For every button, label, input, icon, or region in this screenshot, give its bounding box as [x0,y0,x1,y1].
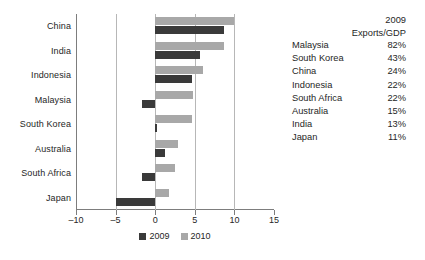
table-cell-country: South Korea [292,52,364,65]
table-cell-country: China [292,65,364,78]
table-cell-value: 13% [364,118,420,131]
bar-2009-south-africa [142,173,155,181]
chart-page: ChinaIndiaIndonesiaMalaysiaSouth KoreaAu… [0,0,425,260]
bar-2010-india [155,42,224,50]
table-row: India13% [292,118,420,131]
category-label: South Africa [21,168,71,178]
table-row: Japan11% [292,131,420,144]
table-row: Indonesia22% [292,79,420,92]
bar-2009-india [155,51,199,59]
table-cell-country: India [292,118,364,131]
chart-legend: 20092010 [76,231,274,241]
x-tick-label: –5 [111,215,121,225]
category-label: Australia [35,144,71,154]
bar-2010-china [155,17,234,25]
table-cell-country: Japan [292,131,364,144]
bar-2010-malaysia [155,91,193,99]
legend-label: 2009 [149,231,169,241]
table-row: South Africa22% [292,92,420,105]
table-cell-value: 15% [364,105,420,118]
bar-2010-south-africa [155,164,175,172]
category-label: South Korea [20,119,71,129]
x-tick-label: –10 [68,215,83,225]
category-label: Indonesia [31,70,71,80]
table-row: Australia15% [292,105,420,118]
bar-group: South Korea [76,112,274,137]
bar-2009-indonesia [155,75,191,83]
table-cell-country: Malaysia [292,39,364,52]
bar-2010-australia [155,140,178,148]
legend-item: 2009 [139,231,169,241]
legend-label: 2010 [191,231,211,241]
x-axis-tick-labels: –10–5051015 [76,212,274,228]
plot-area: ChinaIndiaIndonesiaMalaysiaSouth KoreaAu… [76,14,274,210]
bar-2009-malaysia [142,100,155,108]
legend-item: 2010 [181,231,211,241]
bar-group: Indonesia [76,63,274,88]
table-cell-country: Australia [292,105,364,118]
bar-chart: ChinaIndiaIndonesiaMalaysiaSouth KoreaAu… [0,0,290,260]
bar-group: China [76,14,274,39]
x-tick-label: 10 [229,215,239,225]
bar-2009-china [155,26,224,34]
bar-2010-indonesia [155,66,203,74]
bar-group: Japan [76,186,274,211]
bar-group: South Africa [76,161,274,186]
bar-group: Australia [76,137,274,162]
table-row: China24% [292,65,420,78]
category-label: India [51,46,71,56]
table-cell-value: 22% [364,79,420,92]
bar-2009-south-korea [155,124,157,132]
table-cell-country: South Africa [292,92,364,105]
x-tick-label: 0 [153,215,158,225]
legend-swatch-2009 [139,233,146,240]
table-row: Malaysia82% [292,39,420,52]
table-header-year: 2009 [292,14,420,27]
bar-2010-south-korea [155,115,191,123]
table-cell-country: Indonesia [292,79,364,92]
x-tick-label: 15 [269,215,279,225]
x-tick-label: 5 [192,215,197,225]
table-header-metric: Exports/GDP [292,27,420,40]
table-row: South Korea43% [292,52,420,65]
bar-2009-australia [155,149,165,157]
exports-gdp-table: 2009 Exports/GDP Malaysia82%South Korea4… [292,14,420,145]
bar-2009-japan [116,198,156,206]
bar-group: India [76,39,274,64]
table-cell-value: 82% [364,39,420,52]
category-label: Malaysia [35,95,71,105]
bar-2010-japan [155,189,169,197]
table-cell-value: 11% [364,131,420,144]
legend-swatch-2010 [181,233,188,240]
table-cell-value: 22% [364,92,420,105]
table-body: Malaysia82%South Korea43%China24%Indones… [292,39,420,145]
category-label: China [47,21,71,31]
table-cell-value: 24% [364,65,420,78]
bar-group: Malaysia [76,88,274,113]
table-cell-value: 43% [364,52,420,65]
category-label: Japan [46,193,71,203]
